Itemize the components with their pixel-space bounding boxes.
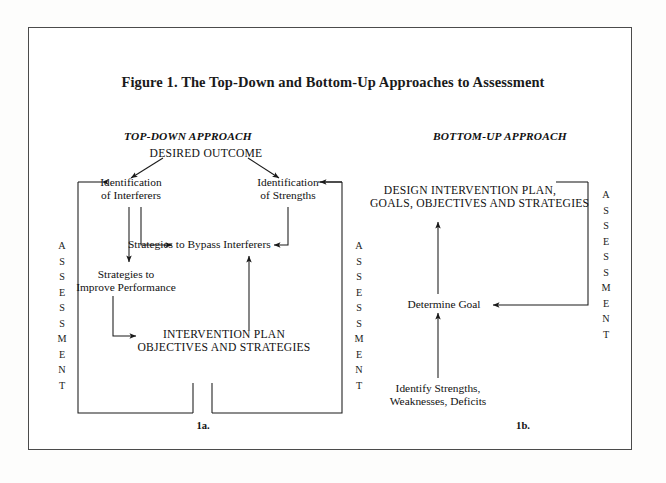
assessment-letter: S xyxy=(599,203,613,219)
assessment-letter: M xyxy=(352,331,366,347)
assessment-letter: N xyxy=(352,362,366,378)
assessment-letter: T xyxy=(55,378,69,394)
node-identification-of-strengths: Identification of Strengths xyxy=(237,176,339,202)
node-desired-outcome: DESIRED OUTCOME xyxy=(136,147,276,160)
panel-number-1a: 1a. xyxy=(183,420,223,432)
assessment-letter: N xyxy=(599,311,613,327)
assessment-letter: M xyxy=(599,280,613,296)
assessment-label-right: A S S E S S M E N T xyxy=(599,187,613,342)
node-identification-of-interferers: Identification of Interferers xyxy=(78,176,184,202)
assessment-letter: S xyxy=(352,300,366,316)
assessment-letter: T xyxy=(599,327,613,343)
assessment-letter: E xyxy=(55,285,69,301)
assessment-letter: S xyxy=(599,265,613,281)
assessment-letter: N xyxy=(55,362,69,378)
assessment-letter: E xyxy=(599,234,613,250)
node-intervention-plan: INTERVENTION PLAN OBJECTIVES AND STRATEG… xyxy=(133,328,315,355)
figure-title: Figure 1. The Top-Down and Bottom-Up App… xyxy=(0,74,666,91)
assessment-letter: S xyxy=(599,218,613,234)
node-strategies-to-bypass-interferers: Strategies to Bypass Interferers xyxy=(128,238,290,251)
assessment-letter: T xyxy=(352,378,366,394)
panel-number-1b: 1b. xyxy=(503,420,543,432)
assessment-letter: S xyxy=(55,300,69,316)
assessment-letter: E xyxy=(352,285,366,301)
assessment-letter: S xyxy=(352,254,366,270)
figure-page: Figure 1. The Top-Down and Bottom-Up App… xyxy=(0,0,666,483)
node-strategies-to-improve-performance: Strategies to Improve Performance xyxy=(60,268,192,294)
node-determine-goal: Determine Goal xyxy=(394,298,494,311)
assessment-letter: A xyxy=(599,187,613,203)
right-panel-heading: BOTTOM-UP APPROACH xyxy=(400,130,600,143)
assessment-letter: S xyxy=(55,269,69,285)
left-panel-heading: TOP-DOWN APPROACH xyxy=(88,130,288,143)
assessment-letter: E xyxy=(55,347,69,363)
assessment-letter: S xyxy=(55,254,69,270)
assessment-letter: M xyxy=(55,331,69,347)
assessment-letter: S xyxy=(599,249,613,265)
assessment-letter: E xyxy=(599,296,613,312)
assessment-label-middle: A S S E S S M E N T xyxy=(352,238,366,393)
assessment-letter: S xyxy=(352,316,366,332)
node-identify-strengths-weaknesses-deficits: Identify Strengths, Weaknesses, Deficits xyxy=(374,382,502,408)
assessment-letter: A xyxy=(55,238,69,254)
assessment-letter: E xyxy=(352,347,366,363)
assessment-letter: A xyxy=(352,238,366,254)
assessment-letter: S xyxy=(352,269,366,285)
assessment-letter: S xyxy=(55,316,69,332)
assessment-label-left: A S S E S S M E N T xyxy=(55,238,69,393)
node-design-intervention-plan: DESIGN INTERVENTION PLAN, GOALS, OBJECTI… xyxy=(370,184,570,211)
